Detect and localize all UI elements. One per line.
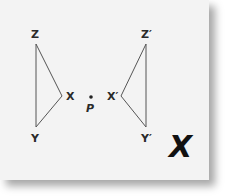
label-x: X bbox=[66, 90, 75, 103]
point-p-dot bbox=[89, 95, 93, 99]
label-y-prime: Y′ bbox=[140, 132, 152, 145]
triangle-zxy-prime bbox=[121, 44, 146, 127]
label-z-prime: Z′ bbox=[141, 28, 152, 41]
label-z: Z bbox=[31, 28, 39, 41]
label-p: P bbox=[86, 102, 94, 115]
triangle-zxy bbox=[36, 44, 62, 127]
label-y: Y bbox=[30, 132, 40, 145]
transformation-figure: Z X Y P Z′ X′ Y′ X bbox=[0, 0, 226, 191]
incorrect-x-mark-icon: X bbox=[167, 129, 194, 164]
label-x-prime: X′ bbox=[107, 90, 118, 103]
